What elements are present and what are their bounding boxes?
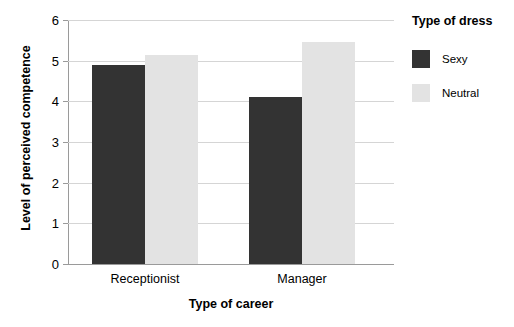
y-tick-label: 5 bbox=[19, 53, 59, 68]
x-category-label-manager: Manager bbox=[249, 272, 355, 286]
legend-item-sexy: Sexy bbox=[412, 50, 512, 68]
tick-mark bbox=[63, 142, 68, 143]
y-tick-label: 4 bbox=[19, 94, 59, 109]
legend-item-neutral: Neutral bbox=[412, 84, 512, 102]
bar-receptionist-neutral bbox=[145, 55, 198, 264]
x-category-label-receptionist: Receptionist bbox=[92, 272, 198, 286]
y-tick-label: 2 bbox=[19, 175, 59, 190]
gridline bbox=[68, 20, 394, 21]
tick-mark bbox=[63, 223, 68, 224]
plot-area: 6 5 4 3 2 1 0 bbox=[68, 20, 394, 264]
y-tick-label: 6 bbox=[19, 13, 59, 28]
y-tick-label: 1 bbox=[19, 216, 59, 231]
tick-mark bbox=[63, 183, 68, 184]
tick-mark bbox=[63, 20, 68, 21]
x-axis-line bbox=[68, 264, 394, 265]
legend-swatch-icon-neutral bbox=[412, 84, 430, 102]
tick-mark bbox=[63, 61, 68, 62]
bar-receptionist-sexy bbox=[92, 65, 145, 264]
x-axis-title: Type of career bbox=[68, 297, 394, 311]
legend-label-sexy: Sexy bbox=[442, 53, 468, 65]
legend-label-neutral: Neutral bbox=[442, 87, 479, 99]
tick-mark bbox=[63, 101, 68, 102]
legend-swatch-icon-sexy bbox=[412, 50, 430, 68]
bar-manager-sexy bbox=[249, 97, 302, 264]
bar-manager-neutral bbox=[302, 42, 355, 264]
y-tick-label: 0 bbox=[19, 257, 59, 272]
y-tick-label: 3 bbox=[19, 135, 59, 150]
legend-title: Type of dress bbox=[412, 14, 512, 28]
bar-chart: Level of perceived competence 6 5 4 3 bbox=[0, 0, 514, 327]
legend: Type of dress Sexy Neutral bbox=[412, 14, 512, 118]
tick-mark bbox=[63, 264, 68, 265]
